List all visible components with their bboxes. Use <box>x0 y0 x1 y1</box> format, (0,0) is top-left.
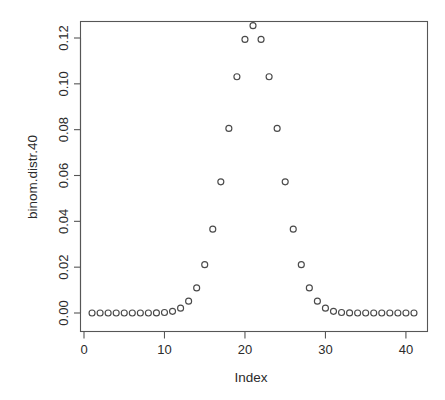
data-point <box>234 74 240 80</box>
x-axis-ticks: 010203040 <box>80 332 413 358</box>
x-tick-label: 30 <box>318 342 332 357</box>
data-point <box>153 310 159 316</box>
y-tick-label: 0.02 <box>56 255 71 280</box>
x-tick-label: 20 <box>238 342 252 357</box>
data-point <box>347 310 353 316</box>
data-point <box>371 310 377 316</box>
data-point <box>105 310 111 316</box>
data-point <box>145 310 151 316</box>
data-point <box>282 179 288 185</box>
data-point <box>411 310 417 316</box>
chart-canvas: 0.000.020.040.060.080.100.12 010203040 b… <box>0 0 445 400</box>
y-tick-label: 0.04 <box>56 209 71 234</box>
data-point <box>89 310 95 316</box>
data-point <box>97 310 103 316</box>
x-tick-label: 40 <box>399 342 413 357</box>
data-point <box>250 23 256 29</box>
y-tick-label: 0.06 <box>56 163 71 188</box>
data-point <box>322 305 328 311</box>
y-axis-ticks: 0.000.020.040.060.080.100.12 <box>56 25 81 325</box>
data-point <box>210 226 216 232</box>
data-point <box>298 262 304 268</box>
y-tick-label: 0.12 <box>56 25 71 50</box>
data-point <box>379 310 385 316</box>
data-point <box>266 74 272 80</box>
y-tick-label: 0.00 <box>56 300 71 325</box>
y-axis-title: binom.distr.40 <box>25 135 40 219</box>
data-point <box>395 310 401 316</box>
x-axis-title: Index <box>234 370 267 385</box>
data-point <box>113 310 119 316</box>
data-point <box>314 298 320 304</box>
data-point <box>387 310 393 316</box>
data-point <box>355 310 361 316</box>
data-point <box>226 125 232 131</box>
data-point <box>161 310 167 316</box>
data-point <box>274 125 280 131</box>
y-tick-label: 0.10 <box>56 71 71 96</box>
y-tick-label: 0.08 <box>56 117 71 142</box>
data-point-layer <box>89 23 417 316</box>
data-point <box>137 310 143 316</box>
data-point <box>186 298 192 304</box>
data-point <box>403 310 409 316</box>
x-tick-label: 0 <box>80 342 87 357</box>
data-point <box>202 262 208 268</box>
scatter-plot: 0.000.020.040.060.080.100.12 010203040 b… <box>0 0 445 400</box>
data-point <box>242 36 248 42</box>
plot-panel-border <box>81 22 428 332</box>
data-point <box>339 310 345 316</box>
data-point <box>290 226 296 232</box>
data-point <box>129 310 135 316</box>
data-point <box>218 179 224 185</box>
data-point <box>170 308 176 314</box>
data-point <box>330 308 336 314</box>
data-point <box>194 285 200 291</box>
data-point <box>258 36 264 42</box>
data-point <box>121 310 127 316</box>
data-point <box>363 310 369 316</box>
x-tick-label: 10 <box>157 342 171 357</box>
data-point <box>178 305 184 311</box>
data-point <box>306 285 312 291</box>
